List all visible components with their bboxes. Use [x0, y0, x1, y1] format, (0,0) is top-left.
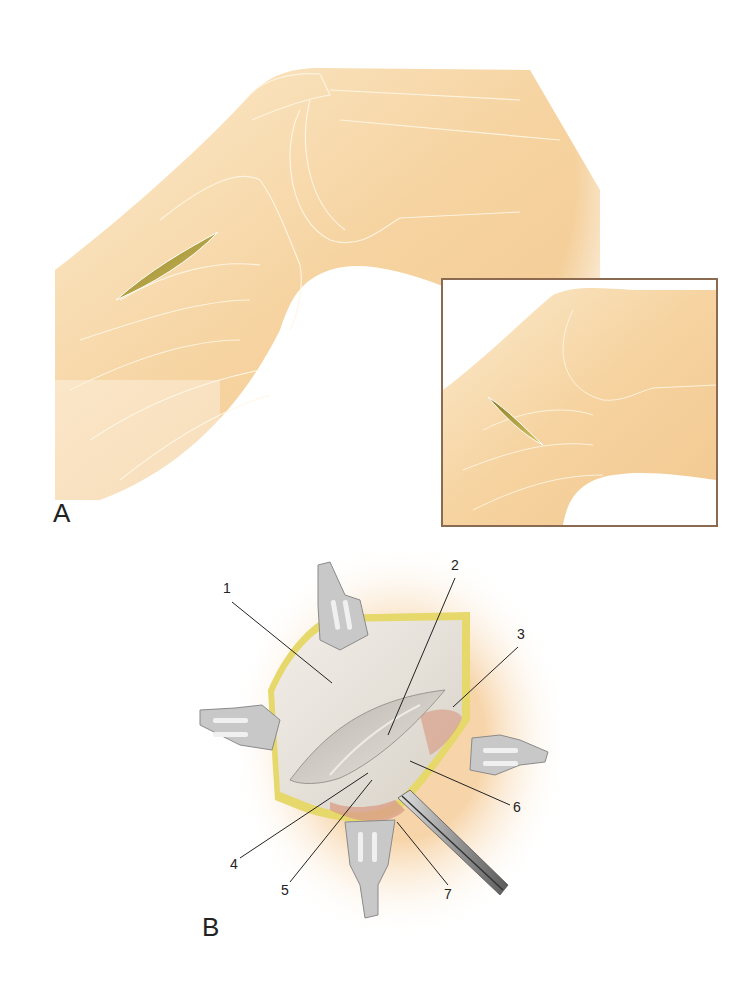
- panel-label-b: B: [202, 912, 219, 943]
- callout-1: 1: [223, 580, 231, 596]
- inset-knee-illustration: [443, 280, 716, 525]
- callout-3: 3: [517, 626, 525, 642]
- panel-a: A: [0, 0, 742, 540]
- inset-frame: [441, 278, 718, 527]
- panel-label-a: A: [53, 498, 70, 529]
- panel-b: 1 2 3 4 5 6 7 B: [0, 540, 742, 1006]
- callout-6: 6: [513, 799, 521, 815]
- callout-7: 7: [444, 886, 452, 902]
- callout-4: 4: [230, 856, 238, 872]
- surgical-exposure-illustration: [0, 540, 742, 1006]
- callout-2: 2: [451, 557, 459, 573]
- retractor-left: [200, 705, 280, 750]
- callout-5: 5: [281, 882, 289, 898]
